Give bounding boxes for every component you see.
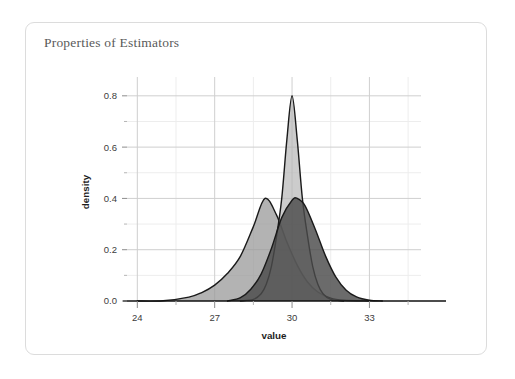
x-tick-label: 33: [364, 312, 375, 323]
y-tick-label: 0.6: [104, 142, 117, 153]
density-plot: 0.00.20.40.60.824273033 value density: [26, 23, 488, 356]
y-axis-title: density: [80, 174, 91, 209]
x-tick-label: 30: [287, 312, 298, 323]
y-tick-label: 0.2: [104, 244, 117, 255]
screenshot-root: Properties of Estimators 0.00.20.40.60.8…: [0, 0, 515, 379]
y-tick-label: 0.4: [104, 193, 117, 204]
x-tick-label: 24: [132, 312, 143, 323]
x-axis-title: value: [261, 330, 287, 341]
chart-card: Properties of Estimators 0.00.20.40.60.8…: [25, 22, 487, 355]
density-plot-svg: 0.00.20.40.60.824273033 value density: [26, 23, 488, 356]
y-tick-label: 0.0: [104, 295, 117, 306]
x-tick-label: 27: [209, 312, 220, 323]
y-tick-label: 0.8: [104, 90, 117, 101]
